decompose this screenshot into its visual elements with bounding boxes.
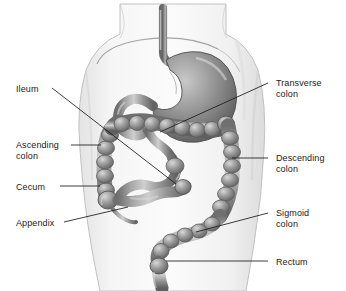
label-cecum: Cecum <box>16 182 45 193</box>
label-descending-colon: Descending colon <box>276 153 325 174</box>
label-ascending-colon: Ascending colon <box>16 140 59 161</box>
anatomy-diagram-canvas: Ileum Ascending colon Cecum Appendix Tra… <box>0 0 346 291</box>
esophagus <box>161 8 169 62</box>
label-rectum: Rectum <box>276 257 308 268</box>
label-sigmoid-colon: Sigmoid colon <box>276 208 309 229</box>
label-transverse-colon: Transverse colon <box>276 78 322 99</box>
label-ileum: Ileum <box>16 84 39 95</box>
label-appendix: Appendix <box>16 218 54 229</box>
